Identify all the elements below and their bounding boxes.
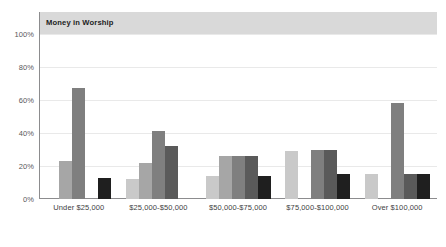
- bar-chart: 0%20%40%60%80%100% Money in Worship Unde…: [0, 0, 446, 247]
- bar: [165, 146, 178, 199]
- x-axis-category-label: $50,000-$75,000: [209, 203, 267, 212]
- bar: [311, 150, 324, 200]
- bar: [72, 88, 85, 199]
- bar: [417, 174, 430, 199]
- y-axis-tick-label: 60%: [19, 96, 34, 105]
- x-axis-labels: Under $25,000$25,000-$50,000$50,000-$75,…: [39, 203, 437, 219]
- bar: [232, 156, 245, 199]
- bar-group: [365, 34, 430, 199]
- bar: [98, 178, 111, 199]
- plot-frame: Money in Worship: [39, 12, 437, 199]
- x-axis-category-label: $25,000-$50,000: [129, 203, 187, 212]
- bar: [152, 131, 165, 199]
- plot-area: [39, 34, 437, 199]
- bar: [245, 156, 258, 199]
- y-axis-tick-label: 40%: [19, 129, 34, 138]
- bar: [404, 174, 417, 199]
- chart-title-band: Money in Worship: [39, 12, 437, 34]
- y-axis-tick-label: 80%: [19, 63, 34, 72]
- bar: [139, 163, 152, 199]
- y-axis-tick-label: 100%: [14, 30, 34, 39]
- y-axis: 0%20%40%60%80%100%: [0, 0, 38, 247]
- bar: [258, 176, 271, 199]
- x-axis-category-label: $75,000-$100,000: [286, 203, 349, 212]
- bar-group: [126, 34, 191, 199]
- bar-groups: [39, 34, 437, 199]
- bar: [285, 151, 298, 199]
- bar-group: [285, 34, 350, 199]
- bar: [391, 103, 404, 199]
- bar: [219, 156, 232, 199]
- chart-title: Money in Worship: [46, 18, 114, 27]
- bar-group: [46, 34, 111, 199]
- bar: [365, 174, 378, 199]
- bar-group: [206, 34, 271, 199]
- bar: [59, 161, 72, 199]
- y-axis-tick-label: 20%: [19, 162, 34, 171]
- y-axis-tick-label: 0%: [23, 195, 34, 204]
- bar: [126, 179, 139, 199]
- x-axis-category-label: Over $100,000: [372, 203, 423, 212]
- bar: [337, 174, 350, 199]
- bar: [324, 150, 337, 200]
- x-axis-category-label: Under $25,000: [53, 203, 104, 212]
- bar: [206, 176, 219, 199]
